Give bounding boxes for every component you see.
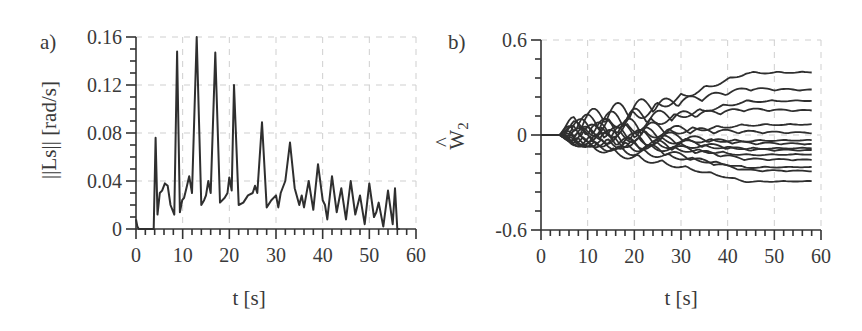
ls-norm-line [136,37,400,229]
svg-text:50: 50 [764,245,784,267]
x-axis-title-b: t [s] [664,286,697,310]
svg-text:0.04: 0.04 [87,170,122,192]
svg-text:60: 60 [406,244,426,266]
svg-text:0.6: 0.6 [502,29,527,51]
grid [541,40,821,230]
svg-text:-0.6: -0.6 [495,219,527,241]
svg-text:10: 10 [173,244,193,266]
chart-b: 0102030405060-0.600.6 b) t [s] W2 ^ [431,29,831,310]
y-axis-title-b: W2 ^ [431,122,471,149]
svg-text:0: 0 [517,124,527,146]
svg-text:10: 10 [578,245,598,267]
svg-text:40: 40 [718,245,738,267]
panel-label-a: a) [40,30,56,54]
svg-text:50: 50 [359,244,379,266]
figure: 010203040506000.040.080.120.16 a) t [s] … [0,0,862,331]
svg-text:30: 30 [671,245,691,267]
svg-text:0: 0 [536,245,546,267]
chart-a: 010203040506000.040.080.120.16 a) t [s] … [37,26,426,310]
svg-text:^: ^ [431,137,455,147]
svg-text:60: 60 [811,245,831,267]
svg-text:20: 20 [624,245,644,267]
y-axis-title-a: ||Ls|| [rad/s] [37,81,61,179]
svg-text:0: 0 [131,244,141,266]
weight-trajectories [541,72,812,183]
svg-text:30: 30 [266,244,286,266]
panel-label-b: b) [448,30,466,54]
svg-text:40: 40 [313,244,333,266]
tick-labels: 010203040506000.040.080.120.16 [87,26,426,266]
svg-text:0.12: 0.12 [87,74,122,96]
svg-text:0.16: 0.16 [87,26,122,48]
svg-text:0: 0 [112,218,122,240]
svg-text:20: 20 [219,244,239,266]
svg-text:0.08: 0.08 [87,122,122,144]
x-axis-title-a: t [s] [232,286,265,310]
